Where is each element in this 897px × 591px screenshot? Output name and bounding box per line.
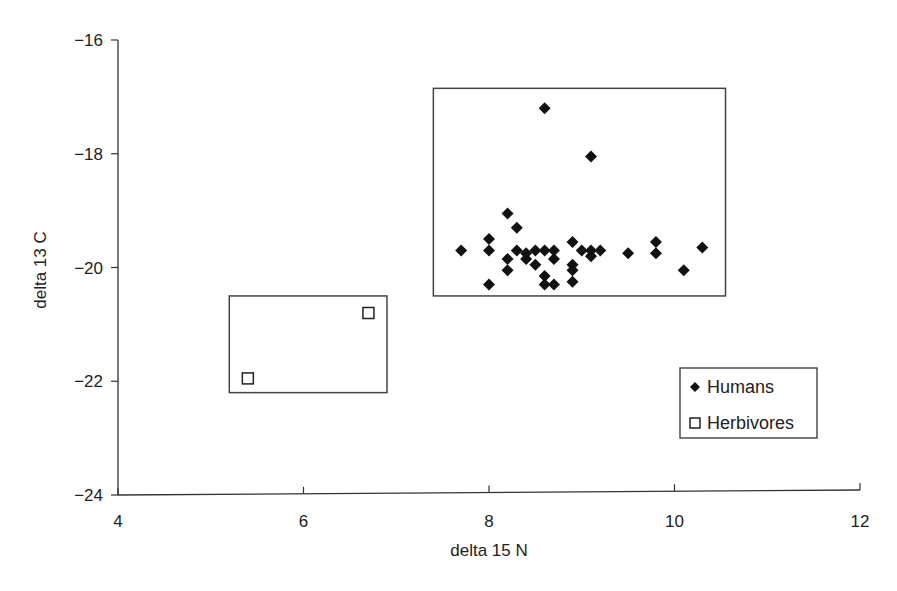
- herbivore-point: [363, 308, 374, 319]
- human-point: [502, 253, 514, 265]
- data-points: [242, 102, 708, 384]
- human-point: [483, 244, 495, 256]
- human-point: [511, 244, 523, 256]
- x-tick-label: 12: [851, 512, 870, 531]
- human-point: [622, 247, 634, 259]
- x-axis-title: delta 15 N: [450, 541, 528, 560]
- human-point: [455, 244, 467, 256]
- x-tick-label: 6: [299, 512, 308, 531]
- legend-label-herbivores: Herbivores: [707, 413, 794, 433]
- group-range-boxes: [229, 88, 725, 392]
- human-point: [502, 207, 514, 219]
- human-point: [483, 279, 495, 291]
- y-tick-label: −16: [74, 31, 103, 50]
- x-tick-label: 10: [665, 512, 684, 531]
- human-point: [529, 259, 541, 271]
- human-point: [566, 276, 578, 288]
- open-square-icon: [690, 418, 700, 428]
- humans-range-box: [433, 88, 725, 296]
- legend: Humans Herbivores: [680, 368, 817, 438]
- y-axis-ticks: −16−18−20−22−24: [74, 31, 118, 505]
- herbivore-point: [242, 373, 253, 384]
- y-tick-label: −20: [74, 259, 103, 278]
- y-tick-label: −18: [74, 145, 103, 164]
- scatter-chart: 4681012 −16−18−20−22−24 delta 15 N delta…: [0, 0, 897, 591]
- human-point: [678, 264, 690, 276]
- human-point: [511, 222, 523, 234]
- human-point: [548, 279, 560, 291]
- y-tick-label: −22: [74, 372, 103, 391]
- human-point: [566, 236, 578, 248]
- human-point: [483, 233, 495, 245]
- y-axis-title: delta 13 C: [31, 231, 50, 309]
- human-point: [594, 244, 606, 256]
- human-point: [502, 264, 514, 276]
- x-tick-label: 4: [113, 512, 122, 531]
- y-tick-label: −24: [74, 486, 103, 505]
- legend-label-humans: Humans: [707, 377, 774, 397]
- human-point: [650, 236, 662, 248]
- human-point: [585, 151, 597, 163]
- human-point: [696, 242, 708, 254]
- human-point: [548, 253, 560, 265]
- human-point: [650, 247, 662, 259]
- x-tick-label: 8: [484, 512, 493, 531]
- human-point: [539, 102, 551, 114]
